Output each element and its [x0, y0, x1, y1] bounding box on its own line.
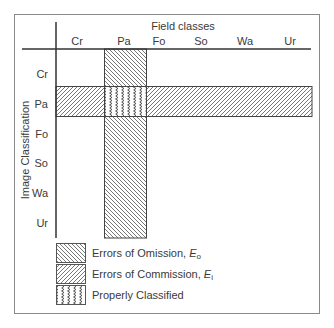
- row-label: Pa: [35, 98, 49, 110]
- error-matrix-diagram: Field classes Cr Pa Fo So Wa Ur Image Cl…: [0, 0, 334, 328]
- legend-label-correct: Properly Classified: [92, 289, 184, 301]
- legend-label-commission: Errors of Commission, Ei: [92, 268, 213, 282]
- column-label: Ur: [284, 35, 296, 47]
- column-label: Fo: [153, 35, 166, 47]
- column-label: Wa: [237, 35, 254, 47]
- row-label: Ur: [36, 217, 48, 229]
- legend-swatch-correct: [57, 286, 86, 305]
- legend-label-omission: Errors of Omission, Eo: [92, 247, 202, 261]
- row-label: So: [35, 157, 48, 169]
- row-label: Fo: [35, 128, 48, 140]
- row-label: Cr: [36, 68, 48, 80]
- legend-swatch-commission: [57, 265, 86, 284]
- column-label: Cr: [71, 35, 83, 47]
- omission-column: [105, 49, 147, 238]
- legend-swatch-omission: [57, 244, 86, 263]
- column-label: Pa: [117, 35, 131, 47]
- correct-cell: [105, 87, 147, 117]
- row-label: Wa: [32, 187, 49, 199]
- row-axis-title: Image Classification: [19, 101, 31, 199]
- column-axis-title: Field classes: [151, 20, 215, 32]
- column-label: So: [194, 35, 207, 47]
- commission-row: [56, 87, 312, 117]
